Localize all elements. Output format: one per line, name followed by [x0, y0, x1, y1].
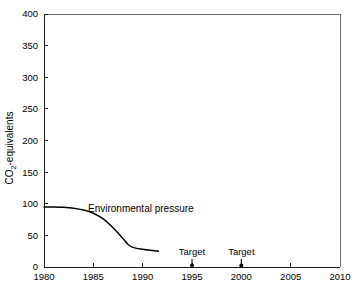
x-tick-label: 2000	[231, 271, 252, 282]
x-tick-label: 1980	[33, 271, 54, 282]
x-tick-label: 1985	[83, 271, 104, 282]
y-tick-label: 250	[22, 103, 38, 114]
plot-frame	[44, 14, 340, 267]
annotations-group: TargetTarget	[179, 246, 255, 268]
y-tick-label: 300	[22, 72, 38, 83]
y-tick-label: 100	[22, 198, 38, 209]
annotation-label: Target	[228, 246, 255, 257]
annotation-target-1995: Target	[179, 246, 206, 268]
y-tick-label: 350	[22, 40, 38, 51]
y-tick-label: 200	[22, 135, 38, 146]
x-tick-label: 2010	[329, 271, 350, 282]
annotation-marker-dot	[239, 264, 243, 268]
x-tick-label: 1995	[181, 271, 202, 282]
y-tick-label: 150	[22, 167, 38, 178]
line-chart: 050100150200250300350400 198019851990199…	[0, 0, 358, 295]
y-axis-title: CO2-equivalents	[4, 112, 17, 185]
y-tick-label: 400	[22, 8, 38, 19]
x-tick-label: 2005	[280, 271, 301, 282]
y-tick-label: 50	[27, 230, 38, 241]
chart-container: 050100150200250300350400 198019851990199…	[0, 0, 358, 295]
annotation-label: Target	[179, 246, 206, 257]
annotation-marker-dot	[190, 264, 194, 268]
x-tick-label: 1990	[132, 271, 153, 282]
annotation-target-2000: Target	[228, 246, 255, 268]
series-label-environmental-pressure: Environmental pressure	[88, 203, 194, 214]
